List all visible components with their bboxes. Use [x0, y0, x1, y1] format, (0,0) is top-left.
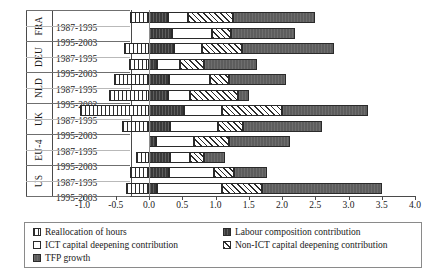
bar-segment-labour [149, 183, 157, 194]
bar-segment-ict [170, 121, 218, 132]
bar-row [0, 43, 442, 54]
bar-segment-ict [170, 152, 190, 163]
bar-segment-tfp [229, 74, 286, 85]
chart-legend: Reallocation of hoursLabour composition … [24, 222, 422, 268]
bar-segment-ict [174, 43, 202, 54]
bar-segment-nonict [180, 59, 204, 70]
row-separator [26, 196, 130, 197]
stacked-bar-chart: 1987-1995FRA1995-20031987-1995DEU1995-20… [0, 0, 442, 277]
legend-label: Reallocation of hours [45, 227, 127, 237]
bar-segment-nonict [222, 105, 282, 116]
bar-row [0, 105, 442, 116]
bar-segment-ict [156, 136, 195, 147]
bar-segment-tfp [231, 28, 295, 39]
bar-segment-nonict [190, 152, 203, 163]
bar-rows [0, 10, 442, 196]
bar-segment-ict [172, 28, 212, 39]
bar-segment-nonict [214, 167, 234, 178]
bar-segment-realloc [124, 43, 149, 54]
legend-swatch-nonict [223, 241, 231, 249]
bar-segment-tfp [238, 90, 249, 101]
bar-row [0, 183, 442, 194]
bar-segment-labour [149, 152, 170, 163]
legend-swatch-ict [33, 241, 41, 249]
bar-row [0, 121, 442, 132]
bar-segment-nonict [194, 136, 229, 147]
bar-segment-labour [149, 105, 184, 116]
bar-segment-tfp [243, 121, 321, 132]
bar-segment-realloc [80, 105, 149, 116]
bar-segment-realloc [114, 74, 149, 85]
bar-segment-ict [184, 105, 223, 116]
bar-segment-nonict [210, 74, 229, 85]
legend-swatch-realloc [33, 228, 41, 236]
bar-row [0, 59, 442, 70]
bar-row [0, 167, 442, 178]
axis-tick-label: 2.0 [265, 200, 299, 210]
bar-segment-ict [157, 183, 222, 194]
legend-item-ict: ICT capital deepening contribution [33, 240, 178, 250]
bar-segment-nonict [202, 43, 242, 54]
bar-segment-realloc [136, 152, 149, 163]
bar-segment-tfp [242, 43, 334, 54]
legend-swatch-tfp [33, 254, 41, 262]
legend-swatch-labour [223, 228, 231, 236]
bar-row [0, 28, 442, 39]
axis-tick-label: 3.0 [332, 200, 366, 210]
bar-row [0, 74, 442, 85]
axis-tick-label: 2.5 [298, 200, 332, 210]
bar-segment-tfp [204, 59, 257, 70]
bar-segment-labour [149, 121, 170, 132]
bar-segment-ict [169, 167, 214, 178]
bar-segment-labour [149, 28, 172, 39]
axis-tick-label: 1.0 [199, 200, 233, 210]
legend-item-tfp: TFP growth [33, 253, 90, 263]
bar-segment-tfp [233, 12, 315, 23]
legend-label: TFP growth [45, 253, 90, 263]
bar-segment-labour [149, 90, 168, 101]
bar-segment-realloc [109, 90, 149, 101]
axis-tick-label: -0.5 [99, 200, 133, 210]
axis-tick-label: 1.5 [232, 200, 266, 210]
legend-item-realloc: Reallocation of hours [33, 227, 127, 237]
bar-row [0, 136, 442, 147]
bar-segment-ict [168, 12, 188, 23]
bar-segment-tfp [282, 105, 368, 116]
axis-tick-label: 0.0 [132, 200, 166, 210]
bar-segment-nonict [222, 183, 262, 194]
legend-label: ICT capital deepening contribution [45, 240, 178, 250]
bar-segment-tfp [262, 183, 382, 194]
axis-tick-label: 0.5 [165, 200, 199, 210]
bar-segment-labour [149, 59, 157, 70]
bar-segment-tfp [204, 152, 225, 163]
bar-segment-realloc [126, 183, 149, 194]
bar-row [0, 152, 442, 163]
legend-item-nonict: Non-ICT capital deepening contribution [223, 240, 388, 250]
bar-segment-ict [157, 59, 180, 70]
legend-label: Non-ICT capital deepening contribution [235, 240, 388, 250]
bar-segment-labour [149, 12, 168, 23]
bar-row [0, 90, 442, 101]
legend-label: Labour composition contribution [235, 227, 361, 237]
bar-segment-ict [168, 90, 191, 101]
bar-segment-ict [169, 74, 210, 85]
bar-segment-tfp [234, 167, 267, 178]
bar-segment-labour [149, 43, 174, 54]
bar-segment-nonict [188, 12, 233, 23]
axis-tick-label: 3.5 [365, 200, 399, 210]
bar-segment-nonict [212, 28, 231, 39]
x-axis-line [130, 196, 416, 197]
bar-row [0, 12, 442, 23]
axis-tick-label: 4.0 [398, 200, 432, 210]
legend-item-labour: Labour composition contribution [223, 227, 361, 237]
bar-segment-realloc [129, 59, 149, 70]
bar-segment-nonict [190, 90, 238, 101]
bar-segment-realloc [130, 167, 149, 178]
bar-segment-tfp [229, 136, 290, 147]
axis-tick-label: -1.0 [66, 200, 100, 210]
bar-segment-realloc [122, 121, 149, 132]
zero-baseline [149, 10, 150, 196]
bar-segment-labour [149, 167, 169, 178]
bar-segment-nonict [218, 121, 243, 132]
bar-segment-labour [149, 74, 169, 85]
